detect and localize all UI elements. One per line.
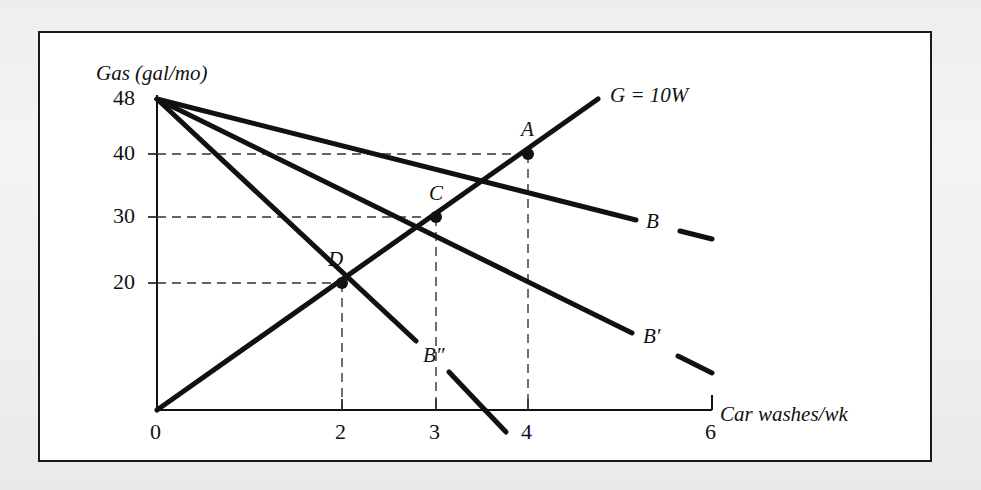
point-marker-a — [522, 148, 534, 160]
ray-g-equals-10w — [157, 99, 598, 410]
x-tick-label-2: 2 — [335, 421, 346, 443]
point-label-a: A — [521, 119, 534, 140]
curve-label-b: B — [646, 211, 659, 232]
y-tick-label-40: 40 — [113, 142, 135, 164]
point-marker-d — [336, 277, 348, 289]
budget-line-b-segment-2 — [680, 231, 712, 239]
y-tick-label-48: 48 — [113, 87, 135, 109]
curve-label-b-double-prime: B″ — [423, 345, 445, 366]
point-marker-c — [430, 211, 442, 223]
budget-line-b-segment-1 — [157, 99, 636, 220]
x-axis-title: Car washes/wk — [720, 404, 848, 425]
y-axis-title: Gas (gal/mo) — [96, 63, 207, 84]
budget-line-b-double-prime-segment-3 — [485, 410, 506, 432]
x-tick-label-4: 4 — [521, 421, 532, 443]
budget-line-b-prime-segment-2 — [678, 356, 712, 373]
budget-line-b-double-prime-segment-1 — [157, 99, 416, 341]
ray-equation-label: G = 10W — [610, 85, 688, 106]
y-tick-label-20: 20 — [113, 271, 135, 293]
point-label-c: C — [429, 183, 443, 204]
x-tick-label-6: 6 — [705, 421, 716, 443]
budget-line-b-prime-segment-1 — [157, 99, 632, 333]
x-tick-label-3: 3 — [429, 421, 440, 443]
figure-page: Gas (gal/mo) Car washes/wk 48 40 30 20 0… — [0, 0, 981, 490]
x-tick-label-0: 0 — [150, 421, 161, 443]
budget-line-b-double-prime-segment-2 — [449, 372, 485, 410]
figure-frame: Gas (gal/mo) Car washes/wk 48 40 30 20 0… — [38, 31, 932, 462]
budget-line-plot — [40, 33, 930, 460]
point-label-d: D — [328, 249, 343, 270]
curve-label-b-prime: B′ — [643, 326, 660, 347]
y-tick-label-30: 30 — [113, 205, 135, 227]
